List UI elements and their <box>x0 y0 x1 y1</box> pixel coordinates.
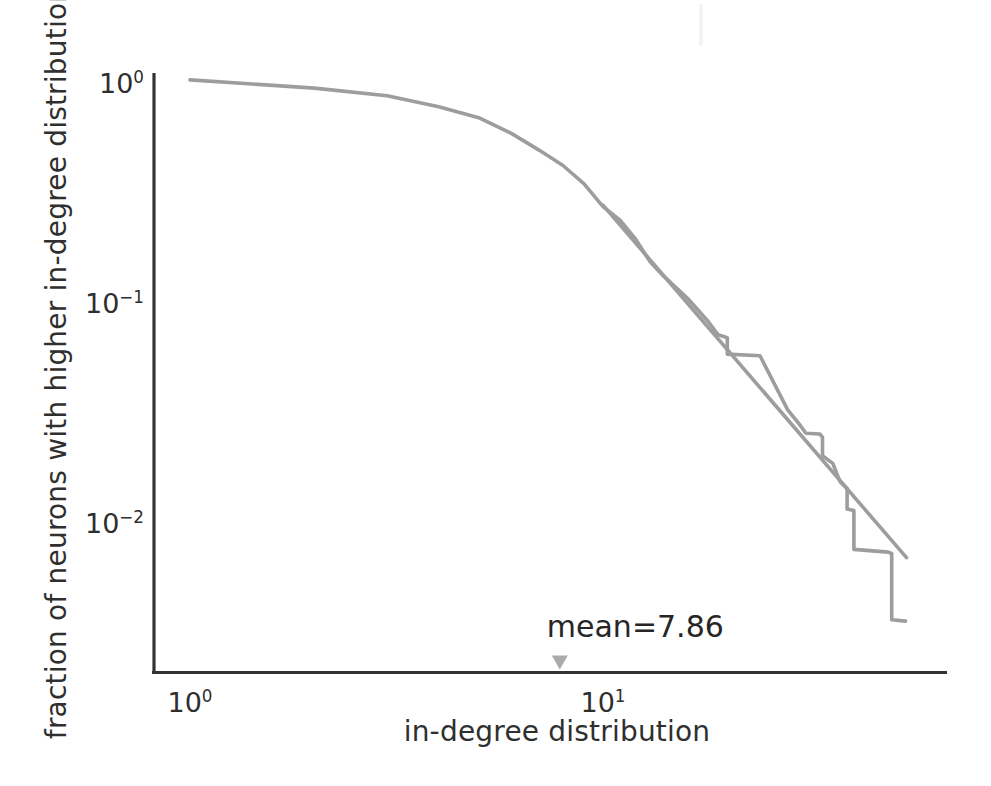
y-tick-label-1: 10−1 <box>0 281 144 320</box>
figure-root: fraction of neurons with higher in-degre… <box>0 0 991 786</box>
plot-canvas <box>0 0 991 786</box>
power-law-fit-line <box>603 205 907 558</box>
empirical-ccdf-line <box>190 80 906 621</box>
mean-marker-icon <box>552 656 568 670</box>
y-axis-label: fraction of neurons with higher in-degre… <box>40 0 73 739</box>
scan-artifact <box>699 4 703 46</box>
y-tick-label-0: 100 <box>0 61 144 100</box>
x-tick-label-0: 100 <box>167 680 212 719</box>
mean-annotation-text: mean=7.86 <box>547 609 724 644</box>
x-axis-label: in-degree distribution <box>404 715 711 748</box>
x-tick-label-1: 101 <box>580 680 625 719</box>
y-tick-label-2: 10−2 <box>0 501 144 540</box>
